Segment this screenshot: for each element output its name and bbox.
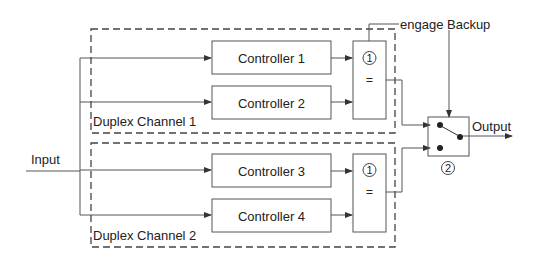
comparator-1-number: 1: [366, 52, 372, 64]
switch-arm: [441, 126, 459, 136]
duplex-channel-1-label: Duplex Channel 1: [93, 114, 196, 129]
controller-1-label: Controller 1: [238, 51, 305, 66]
controller-4-label: Controller 4: [238, 209, 305, 224]
comparator-2-number: 1: [366, 164, 372, 176]
output-label: Output: [472, 119, 511, 134]
engage-backup-label: engage Backup: [400, 17, 490, 32]
comparator-2-symbol: =: [366, 185, 373, 199]
comparator-1-symbol: =: [366, 73, 373, 87]
duplex-channel-diagram: Controller 1 Controller 2 Controller 3 C…: [0, 0, 542, 258]
switch-number: 2: [445, 162, 451, 174]
controller-2-label: Controller 2: [238, 96, 305, 111]
switch-contact-2: [437, 145, 443, 151]
controller-3-label: Controller 3: [238, 164, 305, 179]
duplex-channel-2-label: Duplex Channel 2: [93, 228, 196, 243]
input-label: Input: [31, 152, 60, 167]
